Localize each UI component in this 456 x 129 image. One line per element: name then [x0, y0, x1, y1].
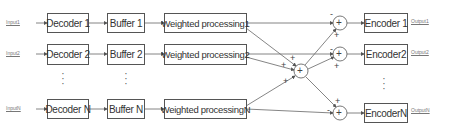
plus-sign: + [281, 61, 286, 70]
plus-sign: + [335, 97, 340, 106]
minus-sign: - [330, 10, 333, 19]
output-label-2: Output2 [411, 49, 429, 55]
buffer-1-block: Buffer 1 [107, 13, 145, 33]
sum-node-2: + [336, 49, 342, 58]
minus-sign: - [327, 106, 330, 115]
weighted-processing-2-block: Weighted processing2 [164, 44, 247, 65]
signal-flow-diagram: + + + + - + - + + - + + + Input1 Input2 … [0, 0, 456, 129]
weighted-processing-1-block: Weighted processing1 [164, 13, 247, 33]
ellipsis-buffers: ··· [123, 71, 129, 86]
output-label-1: Output1 [411, 18, 429, 24]
decoder-n-block: Decoder N [47, 99, 89, 119]
ellipsis-decoders: ··· [60, 71, 66, 86]
encoder-2-block: Encoder2 [364, 44, 408, 65]
buffer-n-block: Buffer N [107, 99, 145, 119]
plus-sign: + [334, 31, 339, 40]
weighted-processing-n-block: Weighted processingN [164, 99, 247, 119]
output-label-n: OutputN [411, 107, 430, 113]
plus-sign: + [283, 77, 288, 86]
sum-node-central: + [297, 66, 303, 75]
plus-sign: + [334, 62, 339, 71]
encoder-n-block: EncoderN [364, 103, 408, 123]
input-label-1: Input1 [6, 19, 20, 25]
encoder-1-block: Encoder 1 [364, 13, 408, 33]
decoder-1-block: Decoder 1 [47, 13, 89, 33]
decoder-2-block: Decoder 2 [47, 44, 89, 65]
ellipsis-encoders: ··· [381, 76, 387, 91]
sum-node-n: + [336, 108, 342, 117]
input-label-2: Input2 [6, 50, 20, 56]
minus-sign: - [330, 45, 333, 54]
input-label-n: InputN [6, 105, 21, 111]
plus-sign: + [290, 54, 295, 63]
buffer-2-block: Buffer 2 [107, 44, 145, 65]
sum-node-1: + [336, 18, 342, 27]
